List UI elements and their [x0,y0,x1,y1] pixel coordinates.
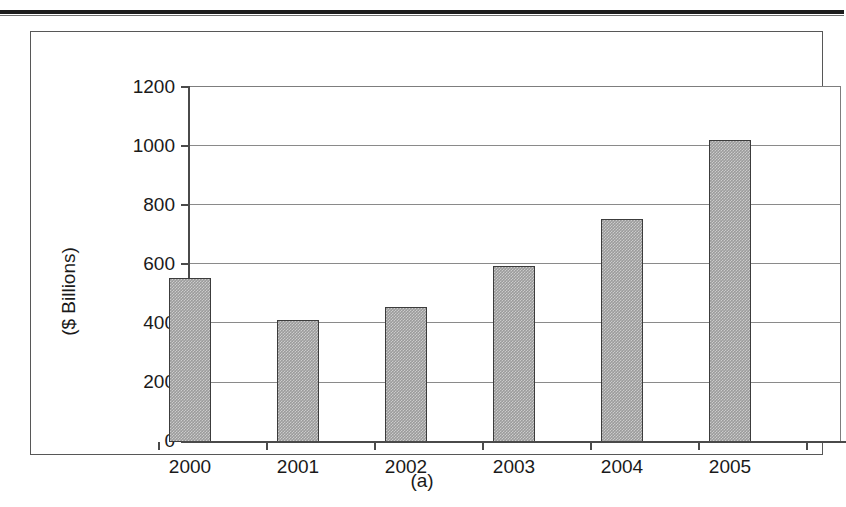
page-top-rule-thin [0,15,844,16]
y-tick-label-wrap: 800 [69,195,175,214]
figure-frame: ($ Billions) 1200 1000 800 600 400 200 0 [30,31,823,455]
x-axis-tick-mark [266,442,268,450]
x-axis-line [181,441,846,443]
page-top-rule [0,10,844,14]
y-axis-tick-label: 400 [75,313,175,332]
y-axis-title: ($ Billions) [59,212,78,372]
y-tick-label-wrap: 1200 [69,77,175,96]
y-axis-tick-label: 800 [75,195,175,214]
bar-2001[interactable] [277,320,319,442]
x-axis-tick-mark [590,442,592,450]
y-tick-label-wrap: 200 [69,372,175,391]
bar-2002[interactable] [385,307,427,442]
y-axis-tick-label: 0 [75,431,175,450]
y-axis-tick-label: 200 [75,372,175,391]
bar-2004[interactable] [601,219,643,442]
x-axis-tick-mark [806,442,808,450]
x-axis-tick-mark [158,442,160,450]
y-axis-tick-label: 600 [75,254,175,273]
y-tick-label-wrap: 400 [69,313,175,332]
x-axis-tick-mark [482,442,484,450]
figure-caption: (a) [0,470,844,491]
bar-2003[interactable] [493,266,535,442]
bar-2005[interactable] [709,140,751,442]
y-axis-tick-label: 1000 [75,136,175,155]
y-axis-tick-label: 1200 [75,77,175,96]
y-tick-label-wrap: 600 [69,254,175,273]
bar-2000[interactable] [169,278,211,442]
y-tick-label-wrap: 1000 [69,136,175,155]
x-axis-tick-mark [698,442,700,450]
x-axis-tick-mark [374,442,376,450]
